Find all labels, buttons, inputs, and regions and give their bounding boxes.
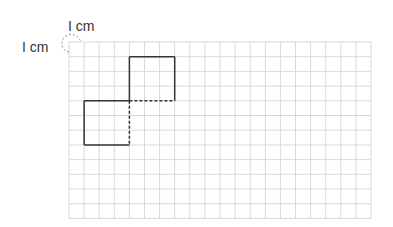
- unit-arc: [62, 34, 81, 52]
- shapes: [84, 57, 175, 145]
- grid-lines: [69, 42, 371, 218]
- horizontal-unit-label: I cm: [68, 18, 94, 34]
- vertical-unit-label: I cm: [22, 39, 48, 55]
- grid-diagram: I cm I cm: [0, 0, 393, 227]
